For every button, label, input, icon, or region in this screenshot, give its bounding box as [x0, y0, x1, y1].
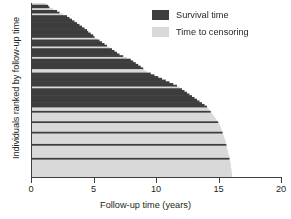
x-ticklabel-5: 5: [79, 184, 109, 194]
legend-item-time-to-censoring: Time to censoring: [152, 27, 249, 37]
x-ticklabel-20: 20: [266, 184, 291, 194]
y-axis-line: [31, 3, 32, 178]
legend-label-time-to-censoring: Time to censoring: [176, 27, 249, 37]
y-axis-label: Individuals ranked by follow-up time: [11, 0, 21, 176]
x-ticklabel-10: 10: [141, 184, 171, 194]
legend-swatch-survival-time: [152, 10, 169, 20]
x-ticklabel-0: 0: [16, 184, 46, 194]
x-tick-10: [156, 178, 157, 183]
legend-label-survival-time: Survival time: [176, 10, 229, 20]
x-tick-20: [281, 178, 282, 183]
x-axis-label: Follow-up time (years): [0, 200, 291, 210]
legend: Survival time Time to censoring: [152, 10, 249, 44]
survival-followup-chart: Individuals ranked by follow-up time 051…: [0, 0, 291, 219]
x-tick-0: [31, 178, 32, 183]
x-tick-5: [94, 178, 95, 183]
x-ticklabel-15: 15: [204, 184, 234, 194]
x-tick-15: [219, 178, 220, 183]
legend-swatch-time-to-censoring: [152, 27, 169, 37]
legend-item-survival-time: Survival time: [152, 10, 249, 20]
